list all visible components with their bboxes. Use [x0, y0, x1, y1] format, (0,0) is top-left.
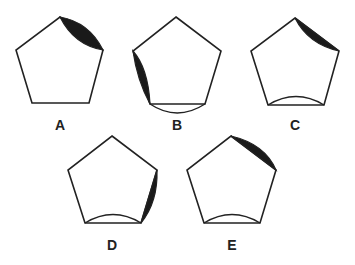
pentagon-option-b[interactable]	[133, 17, 221, 113]
pentagon-option-e[interactable]	[187, 136, 276, 223]
pentagon-option-c[interactable]	[251, 18, 339, 105]
option-label-e: E	[227, 237, 236, 253]
option-label-c: C	[290, 117, 300, 133]
option-label-d: D	[107, 237, 117, 253]
option-label-a: A	[55, 117, 65, 133]
option-label-b: B	[172, 117, 182, 133]
pentagon-option-a[interactable]	[16, 17, 103, 103]
pentagon-option-d[interactable]	[68, 136, 157, 223]
